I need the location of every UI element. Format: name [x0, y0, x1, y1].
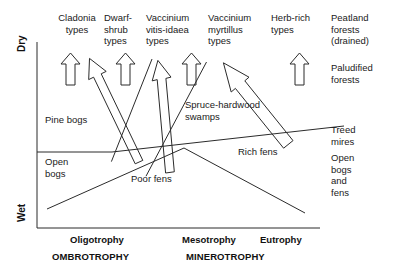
field-label-poor-fens: Poor fens: [131, 173, 195, 185]
top-label-vaccinium-vitis-idaea-types: Vaccinium vitis-idaea types: [146, 12, 206, 47]
x-band-label-ombrotrophy: OMBROTROPHY: [52, 251, 129, 262]
x-tick-label-oligotrophy: Oligotrophy: [70, 234, 124, 245]
right-label-open-bogs-and-fens: Open bogs and fens: [331, 152, 391, 198]
field-label-rich-fens: Rich fens: [238, 146, 302, 158]
field-label-spruce-hardwood-swamps: Spruce-hardwood swamps: [185, 99, 295, 122]
x-tick-label-mesotrophy: Mesotrophy: [182, 234, 236, 245]
right-label-peatland-forests-drained: Peatland forests (drained): [331, 12, 391, 47]
y-axis-label-wet: Wet: [16, 204, 27, 222]
diagonal-arrow-middle-outer: [152, 60, 174, 173]
field-label-pine-bogs: Pine bogs: [45, 114, 120, 126]
top-label-dwarf-shrub-types: Dwarf- shrub types: [104, 12, 146, 47]
right-label-paludified-forests: Paludified forests: [331, 62, 391, 85]
boundary-line-sloping: [112, 126, 344, 152]
up-arrow-vaccinium-myrtillus: [182, 53, 201, 85]
up-arrow-dwarf-shrub: [116, 53, 135, 85]
diagonal-arrow-left-outer: [89, 58, 143, 163]
y-axis-label-dry: Dry: [16, 35, 27, 52]
top-label-cladonia-types: Cladonia types: [47, 12, 107, 35]
diagonal-line-left-crossing: [111, 59, 152, 162]
right-label-treed-mires: Treed mires: [331, 124, 391, 147]
x-tick-label-eutrophy: Eutrophy: [260, 234, 302, 245]
field-label-open-bogs: Open bogs: [45, 156, 95, 179]
up-arrow-cladonia: [61, 53, 80, 85]
top-label-vaccinium-myrtillus-types: Vaccinium myrtillus types: [208, 12, 268, 47]
x-band-label-minerotrophy: MINEROTROPHY: [186, 251, 265, 262]
peatland-succession-diagram: Dry Wet Cladonia types Dwarf- shrub type…: [0, 0, 393, 268]
up-arrow-herb-rich: [290, 53, 309, 85]
boundary-line-descending: [184, 148, 305, 213]
top-label-herb-rich-types: Herb-rich types: [271, 12, 323, 35]
